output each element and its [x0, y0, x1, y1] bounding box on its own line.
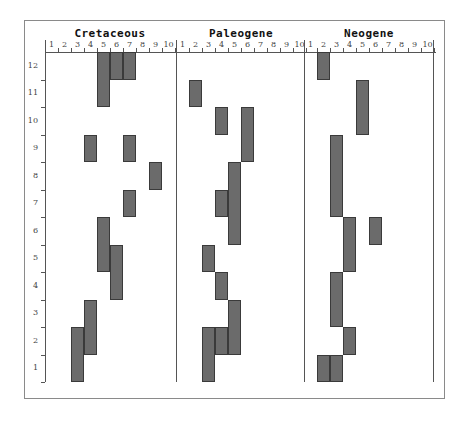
- y-tick: [41, 355, 45, 356]
- x-tick-label: 1: [45, 40, 58, 49]
- range-bar: [84, 300, 97, 355]
- range-bar: [123, 135, 136, 163]
- x-tick-label: 7: [123, 40, 136, 49]
- range-bar: [330, 355, 343, 383]
- x-tick-label: 4: [343, 40, 356, 49]
- range-bar: [369, 217, 382, 245]
- y-tick: [41, 300, 45, 301]
- range-bar: [343, 327, 356, 355]
- range-bar: [215, 327, 228, 355]
- x-tick-label: 10: [162, 40, 175, 49]
- x-tick-label: 5: [228, 40, 241, 49]
- x-tick-label: 2: [189, 40, 202, 49]
- range-bar: [228, 300, 241, 355]
- y-tick: [41, 245, 45, 246]
- y-tick-label: 10: [22, 116, 38, 125]
- panel-title: Cretaceous: [45, 27, 175, 40]
- x-tick-label: 7: [254, 40, 267, 49]
- x-tick-label: 7: [382, 40, 395, 49]
- panel-divider: [45, 40, 46, 382]
- panel-title: Neogene: [304, 27, 434, 40]
- x-tick-label: 3: [71, 40, 84, 49]
- y-tick: [41, 327, 45, 328]
- range-bar: [110, 245, 123, 300]
- y-tick-label: 4: [22, 281, 38, 290]
- range-bar: [215, 107, 228, 135]
- range-bar: [317, 355, 330, 383]
- x-tick-label: 6: [110, 40, 123, 49]
- y-tick-label: 6: [22, 226, 38, 235]
- range-bar: [343, 217, 356, 272]
- x-tick-label: 5: [97, 40, 110, 49]
- x-axis-line: [176, 52, 308, 53]
- y-tick-label: 2: [22, 336, 38, 345]
- y-tick: [41, 162, 45, 163]
- y-tick: [41, 107, 45, 108]
- x-tick-label: 1: [176, 40, 189, 49]
- range-bar: [97, 52, 110, 107]
- y-tick-label: 12: [22, 61, 38, 70]
- x-tick-label: 9: [280, 40, 293, 49]
- y-tick: [41, 272, 45, 273]
- range-bar: [202, 327, 215, 382]
- x-tick-label: 8: [136, 40, 149, 49]
- range-bar: [84, 135, 97, 163]
- x-tick-label: 9: [149, 40, 162, 49]
- y-tick-label: 5: [22, 253, 38, 262]
- x-tick-label: 3: [202, 40, 215, 49]
- y-tick-label: 9: [22, 143, 38, 152]
- range-bar: [228, 162, 241, 245]
- panel-divider: [433, 40, 434, 382]
- x-tick-label: 2: [317, 40, 330, 49]
- range-bar: [189, 80, 202, 108]
- y-tick: [41, 190, 45, 191]
- panel-divider: [176, 40, 177, 382]
- x-tick-label: 6: [241, 40, 254, 49]
- range-bar: [330, 135, 343, 218]
- range-bar: [71, 327, 84, 382]
- y-tick-label: 3: [22, 308, 38, 317]
- x-tick-label: 4: [84, 40, 97, 49]
- range-bar: [123, 190, 136, 218]
- range-bar: [202, 245, 215, 273]
- y-tick: [41, 217, 45, 218]
- y-tick: [41, 80, 45, 81]
- x-tick-label: 8: [395, 40, 408, 49]
- x-tick-label: 5: [356, 40, 369, 49]
- range-bar: [215, 190, 228, 218]
- y-tick: [41, 382, 45, 383]
- panel-title: Paleogene: [176, 27, 306, 40]
- range-bar: [97, 217, 110, 272]
- x-tick-label: 2: [58, 40, 71, 49]
- range-bar: [330, 272, 343, 327]
- x-tick-label: 9: [408, 40, 421, 49]
- x-tick-label: 4: [215, 40, 228, 49]
- x-tick-label: 6: [369, 40, 382, 49]
- x-tick-label: 1: [304, 40, 317, 49]
- range-bar: [123, 52, 136, 80]
- range-bar: [110, 52, 123, 80]
- y-tick-label: 11: [22, 88, 38, 97]
- range-bar: [215, 272, 228, 300]
- x-tick: [434, 48, 435, 52]
- y-tick: [41, 135, 45, 136]
- range-bar: [241, 107, 254, 162]
- y-tick-label: 7: [22, 198, 38, 207]
- x-tick-label: 3: [330, 40, 343, 49]
- range-bar: [149, 162, 162, 190]
- y-tick-label: 8: [22, 171, 38, 180]
- y-tick-label: 1: [22, 363, 38, 372]
- panel-divider: [304, 40, 305, 382]
- range-bar: [356, 80, 369, 135]
- range-bar: [317, 52, 330, 80]
- x-tick-label: 8: [267, 40, 280, 49]
